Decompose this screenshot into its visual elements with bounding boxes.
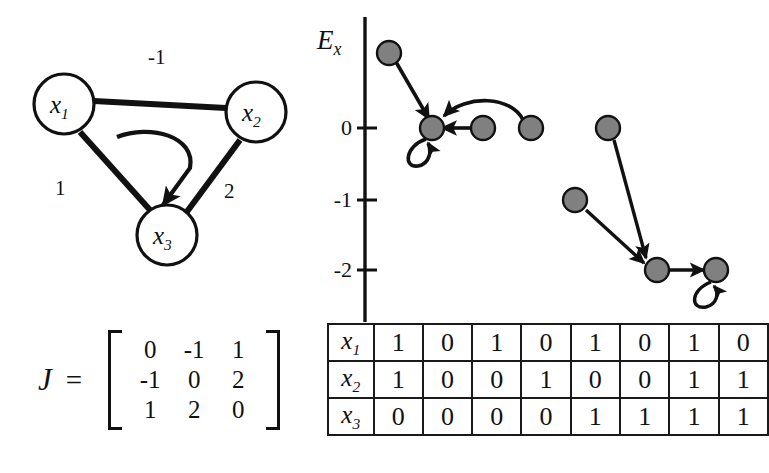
table-cell: 1 [374,324,423,361]
table-cell: 1 [719,361,768,398]
table-cell: 0 [571,361,620,398]
plot-y-ticklabel-minus2: -2 [312,259,352,281]
plot-point-p5 [596,116,620,140]
table-cell: 0 [472,398,521,435]
plot-y-ticklabel-minus1: -1 [312,189,352,211]
table-cell: 0 [719,324,768,361]
state-table: x1 1 0 1 0 1 0 1 0 x2 1 0 0 1 0 0 1 1 [327,323,769,436]
matrix-cell: 2 [232,366,245,394]
plot-markers [377,41,728,282]
table-row: x1 1 0 1 0 1 0 1 0 [328,324,768,361]
table-cell: 0 [620,324,669,361]
plot-point-p4 [519,116,543,140]
matrix-cell: 2 [188,396,201,424]
graph-node-label-x2: x2 [242,100,261,130]
plot-point-p7 [645,258,669,282]
table-cell: 0 [423,324,472,361]
plot-point-p1 [377,41,401,65]
table-row: x2 1 0 0 1 0 0 1 1 [328,361,768,398]
plot-point-p6 [563,188,587,212]
table-row: x3 0 0 0 0 1 1 1 1 [328,398,768,435]
table-cell: 0 [472,361,521,398]
graph-edges [80,101,240,213]
table-cell: 0 [423,361,472,398]
table-cell: 1 [669,324,718,361]
matrix-bracket-right [266,330,280,430]
matrix-cell: 0 [144,336,157,364]
plot-point-p8 [704,258,728,282]
table-cell: 0 [620,361,669,398]
plot-point-p3 [471,116,495,140]
table-rowhead-x1: x1 [328,324,374,361]
table-cell: 1 [472,324,521,361]
matrix-cell: 1 [232,336,245,364]
table-cell: 1 [374,361,423,398]
graph-node-label-x3: x3 [153,223,172,253]
plot-y-axis-label: Ex [317,27,341,59]
plot-arrow-p1-p2 [396,62,429,119]
graph-edge-weight-x2-x3: 2 [224,181,235,202]
plot-y-ticklabel-0: 0 [312,117,352,139]
matrix-cell: -1 [184,336,205,364]
table-cell: 1 [669,361,718,398]
plot-selfloop-p2 [408,139,430,166]
table-rowhead-x3: x3 [328,398,374,435]
table-cell: 1 [571,324,620,361]
plot-axes [357,17,377,322]
matrix-bracket-left [108,330,122,430]
graph-edge-weight-x1-x2: -1 [148,47,166,68]
coupling-matrix: J = 0 -1 1 -1 0 2 1 2 0 [38,330,280,430]
table-cell: 1 [669,398,718,435]
graph-edge-x1-x2 [94,101,226,108]
table-cell: 1 [620,398,669,435]
plot-selfloop-p8 [695,282,717,307]
table-cell: 1 [571,398,620,435]
table-cell: 0 [374,398,423,435]
matrix-cell: 0 [232,396,245,424]
graph-edge-weight-x1-x3: 1 [55,178,66,199]
graph-node-label-x1: x1 [50,92,69,122]
table-cell: 0 [423,398,472,435]
table-cell: 1 [521,361,570,398]
figure-root: x1 x2 x3 -1 1 2 J = 0 -1 1 -1 0 2 1 2 0 … [0,0,769,473]
plot-point-p2 [420,116,444,140]
matrix-equals-sign: = [66,364,82,397]
table-rowhead-x2: x2 [328,361,374,398]
table-cell: 1 [719,398,768,435]
matrix-cell: -1 [140,366,161,394]
graph-edge-x1-x3 [80,132,150,210]
graph-update-arrow [117,132,191,205]
table-cell: 0 [521,398,570,435]
matrix-name: J [38,362,52,398]
matrix-cell: 0 [188,366,201,394]
matrix-grid: 0 -1 1 -1 0 2 1 2 0 [122,332,266,428]
table-cell: 0 [521,324,570,361]
matrix-cell: 1 [144,396,157,424]
